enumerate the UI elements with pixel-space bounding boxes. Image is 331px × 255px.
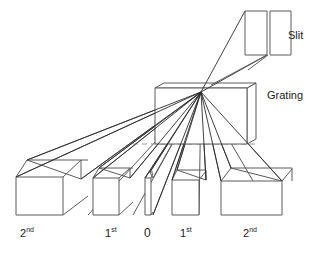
screen-box-left-1st <box>93 168 133 215</box>
order-suffix: nd <box>249 226 257 233</box>
diagram-canvas <box>0 0 331 255</box>
screen-box-right-1st <box>172 170 206 215</box>
order-label-right-1st: 1st <box>180 228 192 239</box>
slit-assembly <box>245 11 291 55</box>
order-label-left-2nd: 2nd <box>20 228 34 239</box>
screen-plate-zero-order <box>145 172 153 215</box>
order-number: 0 <box>144 226 151 240</box>
slit-label: Slit <box>288 30 303 41</box>
grating-label: Grating <box>267 90 303 101</box>
order-label-right-2nd: 2nd <box>243 228 257 239</box>
screen-box-right-2nd <box>221 168 292 215</box>
order-suffix: nd <box>26 226 34 233</box>
order-label-zero: 0 <box>144 227 151 239</box>
order-suffix: st <box>186 226 191 233</box>
slit-left-plate <box>245 11 267 55</box>
order-suffix: st <box>111 226 116 233</box>
screen-box-left-2nd <box>16 160 88 215</box>
order-label-left-1st: 1st <box>105 228 117 239</box>
diffraction-grating-diagram: Slit Grating 2nd 1st 0 1st 2nd <box>0 0 331 255</box>
